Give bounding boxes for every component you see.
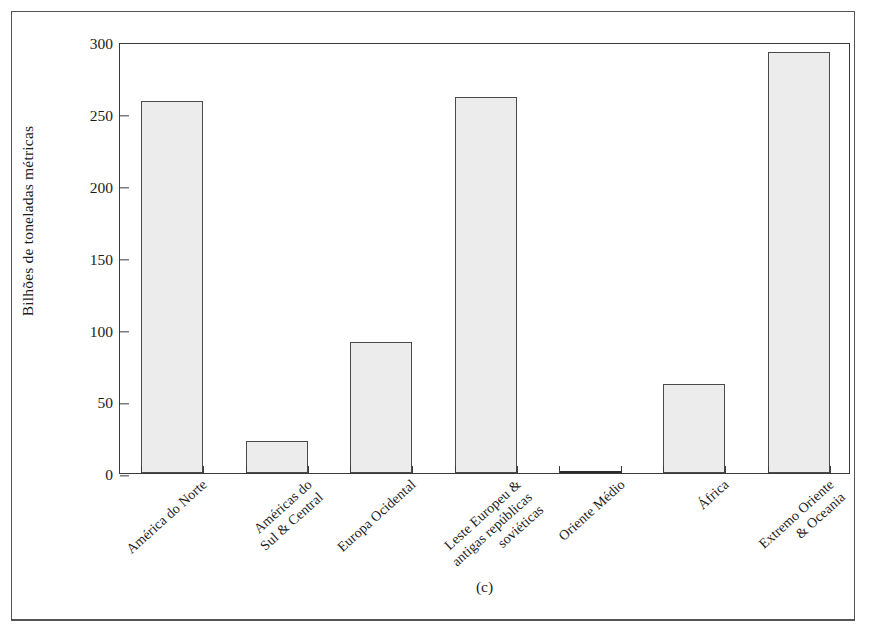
y-axis-tick-label: 150 [90, 251, 120, 269]
x-axis-tick-mark [308, 466, 309, 473]
x-axis-tick-mark [768, 466, 769, 473]
cut-off-footer-text [14, 628, 264, 637]
x-axis-tick-mark [830, 466, 831, 473]
bar-series [120, 44, 849, 473]
bar [768, 52, 830, 473]
x-axis-tick-mark [203, 466, 204, 473]
y-axis-tick-label: 250 [90, 107, 120, 125]
figure-caption: (c) [119, 578, 850, 596]
bar [246, 441, 308, 473]
x-axis-tick-mark [246, 466, 247, 473]
bar [141, 101, 203, 473]
y-axis-tick: 100 [90, 322, 120, 341]
bar [455, 97, 517, 473]
y-axis-label: Bilhões de toneladas métricas [19, 0, 37, 451]
bar [663, 384, 725, 473]
x-axis-tick-label: Extremo Oriente & Oceania [655, 476, 849, 638]
x-axis-tick-mark [517, 466, 518, 473]
plot-area: 050100150200250300 [119, 43, 850, 474]
y-axis-tick: 50 [98, 393, 121, 412]
x-axis-tick-mark [725, 466, 726, 473]
x-axis-tick-mark [350, 466, 351, 473]
x-axis-tick-label: Américas do Sul & Central [133, 476, 327, 638]
x-axis-tick-mark [559, 466, 560, 473]
x-axis-tick-mark [412, 466, 413, 473]
y-axis-tick: 300 [90, 34, 120, 53]
figure-outer-frame: Bilhões de toneladas métricas 0501001502… [11, 11, 855, 620]
y-axis-tick-label: 100 [90, 323, 120, 341]
bar [559, 471, 621, 473]
x-axis-tick-mark [141, 466, 142, 473]
y-axis-tick-label: 0 [105, 467, 120, 485]
x-axis-tick-mark [621, 466, 622, 473]
y-axis-tick-label: 300 [90, 36, 120, 54]
y-axis-tick: 200 [90, 178, 120, 197]
y-axis-tick: 250 [90, 106, 120, 125]
x-axis-tick-label: Leste Europeu & antigas repúblicas sovié… [342, 476, 547, 638]
page-bottom-rule [11, 620, 855, 621]
x-axis-tick-mark [455, 466, 456, 473]
y-axis-tick: 150 [90, 250, 120, 269]
y-axis-tick: 0 [105, 465, 120, 484]
y-axis-label-container: Bilhões de toneladas métricas [34, 12, 64, 512]
bar [350, 342, 412, 473]
y-axis-tick-label: 50 [98, 395, 121, 413]
y-axis-tick-label: 200 [90, 179, 120, 197]
x-axis-tick-mark [663, 466, 664, 473]
